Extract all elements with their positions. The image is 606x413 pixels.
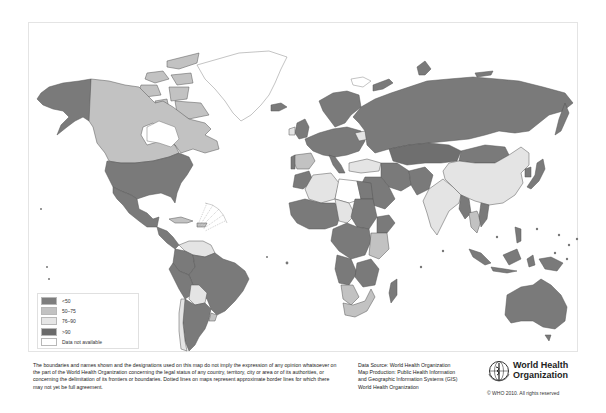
region-portugal (291, 155, 295, 169)
region-ireland (289, 127, 295, 135)
region-australia (505, 279, 567, 329)
region-italy (329, 155, 345, 173)
island-dot (286, 262, 289, 265)
region-indonesia (469, 249, 535, 273)
region-korea (525, 167, 531, 177)
region-western-europe (305, 127, 365, 157)
island-dot (496, 236, 498, 238)
legend-swatch (41, 328, 57, 336)
island-dot (46, 266, 48, 268)
data-source: Data Source: World Health Organization M… (358, 362, 473, 391)
legend-swatch (41, 307, 57, 315)
org-name-line: Organization (513, 371, 568, 381)
region-papua-new-guinea (539, 257, 563, 271)
copyright: © WHO 2010. All rights reserved (487, 390, 559, 396)
map-frame: <50 50–75 76–90 >90 Data not available (28, 22, 578, 352)
island-dot (40, 208, 42, 210)
region-scandinavia (319, 91, 361, 127)
who-emblem-icon (488, 360, 510, 382)
region-alaska (37, 79, 93, 135)
source-line: World Health Organization (358, 384, 473, 391)
island-dot (566, 258, 568, 260)
map-legend: <50 50–75 76–90 >90 Data not available (37, 293, 139, 349)
legend-label: Data not available (62, 339, 102, 345)
source-line: Data Source: World Health Organization (358, 362, 473, 369)
region-russia (353, 77, 573, 153)
island-dot (48, 278, 50, 280)
region-ethiopia (377, 215, 395, 233)
island-dot (576, 238, 578, 240)
who-org-name: World Health Organization (513, 361, 568, 380)
island-dot (568, 244, 570, 246)
region-svalbard (351, 77, 371, 87)
region-west-africa (289, 199, 341, 229)
region-vietnam (479, 203, 489, 227)
region-kenya-tanzania (369, 233, 389, 259)
island-dot (266, 256, 268, 258)
region-argentina (183, 299, 211, 351)
region-spain (293, 153, 315, 169)
legend-swatch (41, 297, 57, 305)
legend-swatch (41, 338, 57, 346)
region-angola (335, 255, 357, 285)
region-uk (295, 119, 309, 139)
legend-label: >90 (62, 329, 70, 335)
island-dot (420, 266, 422, 268)
legend-label: 76–90 (62, 318, 76, 324)
legend-label: 50–75 (62, 308, 76, 314)
legend-label: <50 (62, 298, 70, 304)
island-dot (558, 234, 560, 236)
region-madagascar (389, 279, 397, 303)
map-disclaimer: The boundaries and names shown and the d… (33, 362, 338, 391)
legend-item-lt50: <50 (41, 296, 135, 306)
region-caribbean (169, 217, 207, 227)
legend-item-50-75: 50–75 (41, 306, 135, 316)
legend-item-gt90: >90 (41, 327, 135, 337)
region-zambia-mozambique (355, 259, 379, 287)
legend-swatch (41, 317, 57, 325)
region-central-africa (331, 223, 371, 259)
region-sudan (351, 199, 377, 229)
legend-item-76-90: 76–90 (41, 316, 135, 326)
island-dot (442, 250, 444, 252)
region-central-america (157, 227, 179, 249)
region-turkey (349, 159, 381, 173)
region-iceland (271, 103, 287, 111)
legend-item-no-data: Data not available (41, 337, 135, 347)
island-dot (554, 252, 556, 254)
source-line: Map Production: Public Health Informatio… (358, 369, 473, 376)
region-namibia-botswana (341, 285, 359, 305)
source-line: and Geographic Information Systems (GIS) (358, 376, 473, 383)
island-dot (536, 228, 538, 230)
region-tasmania (545, 335, 551, 341)
region-philippines (515, 227, 521, 243)
who-branding: World Health Organization © WHO 2010. Al… (485, 358, 585, 403)
